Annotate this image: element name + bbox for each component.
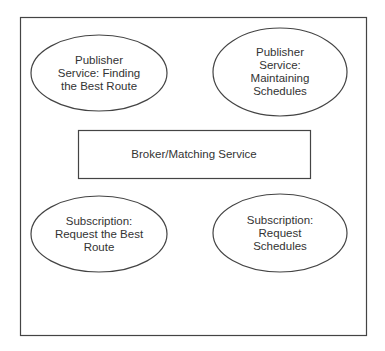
label-line: Subscription:: [55, 215, 143, 228]
label-line: Subscription:: [247, 214, 313, 227]
node-publisher-best-route-label: Publisher Service: Finding the Best Rout…: [31, 35, 167, 111]
label-line: Request: [247, 227, 313, 240]
label-line: Request the Best: [55, 228, 143, 241]
label-line: Schedules: [247, 240, 313, 253]
label-line: Route: [55, 241, 143, 254]
label-line: Service: Finding: [58, 67, 140, 80]
label-line: Maintaining: [251, 72, 310, 85]
label-line: Broker/Matching Service: [131, 148, 256, 161]
label-line: the Best Route: [58, 80, 140, 93]
label-line: Schedules: [251, 85, 310, 98]
node-broker-label: Broker/Matching Service: [78, 130, 310, 178]
node-subscription-best-route-label: Subscription: Request the Best Route: [31, 196, 167, 272]
label-line: Service:: [251, 59, 310, 72]
label-line: Publisher: [251, 46, 310, 59]
node-subscription-schedules-label: Subscription: Request Schedules: [213, 194, 347, 272]
node-publisher-schedules-label: Publisher Service: Maintaining Schedules: [213, 28, 347, 116]
label-line: Publisher: [58, 54, 140, 67]
